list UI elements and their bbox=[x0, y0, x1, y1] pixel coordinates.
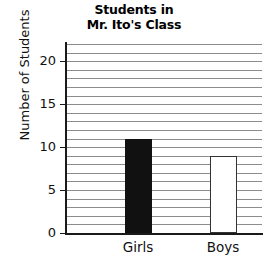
y-axis-line bbox=[65, 42, 67, 235]
y-tick-label: 5 bbox=[26, 183, 56, 196]
y-tick-label: 0 bbox=[26, 226, 56, 239]
x-tick-label-boys: Boys bbox=[188, 239, 258, 255]
y-tick-label: 15 bbox=[26, 97, 56, 110]
gridline bbox=[66, 147, 262, 148]
y-tick-mark bbox=[60, 147, 66, 148]
gridline bbox=[66, 44, 262, 45]
gridline bbox=[66, 61, 262, 62]
x-tick-label-girls: Girls bbox=[103, 239, 173, 255]
gridline bbox=[66, 130, 262, 131]
y-tick-label: 20 bbox=[26, 54, 56, 67]
gridline bbox=[66, 78, 262, 79]
x-axis-line bbox=[65, 233, 263, 235]
bar-girls bbox=[125, 139, 152, 234]
y-tick-mark bbox=[60, 233, 66, 234]
gridline bbox=[66, 96, 262, 97]
chart-title-line-2: Mr. Ito's Class bbox=[0, 17, 268, 32]
plot-area bbox=[66, 44, 262, 233]
bar-boys bbox=[210, 156, 237, 233]
y-tick-label: 10 bbox=[26, 140, 56, 153]
gridline bbox=[66, 139, 262, 140]
y-tick-mark bbox=[60, 104, 66, 105]
bar-chart-figure: Students in Mr. Ito's Class Number of St… bbox=[0, 0, 268, 268]
y-axis-title: Number of Students bbox=[17, 0, 37, 155]
gridline bbox=[66, 104, 262, 105]
gridline bbox=[66, 53, 262, 54]
y-tick-mark bbox=[60, 61, 66, 62]
gridline bbox=[66, 113, 262, 114]
gridline bbox=[66, 87, 262, 88]
chart-title: Students in Mr. Ito's Class bbox=[0, 2, 268, 32]
gridline bbox=[66, 70, 262, 71]
y-tick-mark bbox=[60, 190, 66, 191]
gridline bbox=[66, 121, 262, 122]
chart-title-line-1: Students in bbox=[0, 2, 268, 17]
